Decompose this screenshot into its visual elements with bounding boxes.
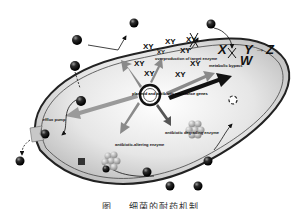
diagram-canvas — [0, 0, 301, 209]
xy-label: XY — [175, 71, 186, 79]
metabolic-bypass-label: metabolic bypass — [209, 64, 239, 68]
modified-antibiotic-icon — [78, 158, 85, 165]
xy-label: XY — [134, 60, 145, 68]
xy-label: XY — [157, 49, 165, 55]
xy-label: XY — [143, 43, 154, 51]
altering-enzyme-label: antibiotic-altering enzyme — [115, 143, 149, 147]
degrading-enzyme-label: antibiotic degrading enzyme — [165, 131, 199, 135]
xy-label: XY — [165, 38, 176, 46]
xy-label-blocked: XY — [186, 36, 197, 44]
figure-caption: 图 … 细菌的耐药机制 — [0, 200, 301, 209]
overproduction-label: overproduction of target enzyme — [155, 57, 195, 61]
xy-label: XY — [144, 70, 155, 78]
resistance-diagram: XY XY XY XY XY XY XY XY XY overproductio… — [0, 0, 301, 209]
degraded-antibiotic-icon — [229, 96, 237, 104]
pathway-x: X — [218, 43, 227, 56]
xy-label: XY — [180, 47, 191, 55]
pathway-z: Z — [266, 43, 274, 56]
efflux-pump-label: efflux pump — [38, 118, 70, 122]
arrow-right-icon: → — [255, 44, 265, 54]
plasmid-label: plasmid and antibiotic resistance genes — [132, 92, 170, 96]
